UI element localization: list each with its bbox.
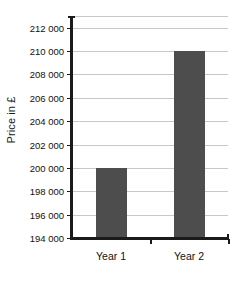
y-axis-tick-label: 208 000 <box>30 69 64 80</box>
x-axis-tick-label: Year 1 <box>96 250 126 262</box>
plot-area <box>72 16 228 238</box>
x-axis-tick-labels: Year 1Year 2 <box>70 250 229 270</box>
gridline <box>72 28 228 29</box>
gridline <box>72 16 228 17</box>
gridline <box>72 121 228 122</box>
y-axis-tick-label: 196 000 <box>30 209 64 220</box>
y-axis-tick-label: 212 000 <box>30 22 64 33</box>
x-axis-tick-mark <box>150 239 152 244</box>
y-axis-tick-label: 210 000 <box>30 46 64 57</box>
gridline <box>72 98 228 99</box>
gridline <box>72 145 228 146</box>
y-axis-top-cap <box>68 16 75 18</box>
y-axis-tick-label: 202 000 <box>30 139 64 150</box>
bar-1 <box>96 168 127 238</box>
y-axis-tick-labels: 212 000210 000208 000206 000204 000202 0… <box>20 16 68 238</box>
y-axis-title: Price in £ <box>0 0 22 240</box>
gridline <box>72 51 228 52</box>
y-axis-tick-label: 204 000 <box>30 116 64 127</box>
y-axis-tick-label: 206 000 <box>30 92 64 103</box>
x-axis-tick-mark <box>228 239 230 244</box>
bar-2 <box>174 51 205 238</box>
y-axis-tick-label: 194 000 <box>30 233 64 244</box>
y-axis-tick-label: 200 000 <box>30 162 64 173</box>
bar-chart: Price in £ 212 000210 000208 000206 0002… <box>0 0 239 281</box>
y-axis-title-text: Price in £ <box>5 97 17 144</box>
y-axis-tick-label: 198 000 <box>30 186 64 197</box>
x-axis-tick-label: Year 2 <box>174 250 204 262</box>
y-axis-line <box>70 16 73 239</box>
gridline <box>72 74 228 75</box>
